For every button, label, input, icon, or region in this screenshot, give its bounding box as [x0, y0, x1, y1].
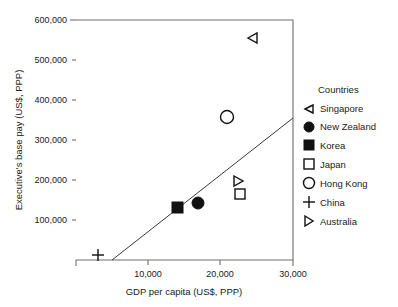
- y-axis-tick-labels: 600,000 500,000 400,000 300,000 200,000 …: [34, 15, 67, 225]
- legend-marker-new-zealand: [304, 122, 314, 132]
- x-tick-label-30000: 30,000: [279, 269, 307, 279]
- y-axis-ticks: [70, 20, 76, 220]
- chart-canvas: 600,000 500,000 400,000 300,000 200,000 …: [0, 0, 398, 307]
- legend-marker-hong-kong: [304, 178, 315, 189]
- data-point-australia: [234, 176, 243, 186]
- data-points: [92, 33, 257, 261]
- legend-marker-china: [303, 196, 315, 208]
- plot-border: [76, 20, 293, 260]
- plot-frame: [76, 20, 293, 260]
- y-tick-label-500000: 500,000: [34, 55, 67, 65]
- legend-label-japan: Japan: [320, 159, 346, 170]
- x-axis-ticks: [76, 260, 293, 266]
- chart-legend: Countries Singapore New Zealand Korea Ja…: [303, 84, 376, 227]
- legend-label-hong-kong: Hong Kong: [320, 178, 368, 189]
- legend-label-australia: Australia: [320, 216, 358, 227]
- y-tick-label-300000: 300,000: [34, 135, 67, 145]
- data-point-hong-kong: [221, 111, 234, 124]
- legend-marker-singapore: [305, 105, 313, 113]
- legend-label-new-zealand: New Zealand: [320, 121, 376, 132]
- y-tick-label-100000: 100,000: [34, 215, 67, 225]
- legend-label-singapore: Singapore: [320, 103, 363, 114]
- x-tick-label-10000: 10,000: [134, 269, 162, 279]
- trend-line: [112, 118, 293, 260]
- y-tick-label-600000: 600,000: [34, 15, 67, 25]
- legend-label-china: China: [320, 197, 346, 208]
- legend-label-korea: Korea: [320, 140, 346, 151]
- y-tick-label-200000: 200,000: [34, 175, 67, 185]
- data-point-korea: [172, 202, 183, 213]
- data-point-new-zealand: [192, 197, 204, 209]
- data-point-china: [92, 249, 104, 261]
- y-axis-title: Executive's base pay (US$, PPP): [13, 70, 24, 211]
- y-tick-label-400000: 400,000: [34, 95, 67, 105]
- legend-title: Countries: [318, 84, 359, 95]
- data-point-singapore: [248, 33, 257, 43]
- x-tick-label-20000: 20,000: [206, 269, 234, 279]
- x-axis-title: GDP per capita (US$, PPP): [126, 286, 243, 297]
- legend-marker-japan: [304, 159, 314, 169]
- legend-marker-australia: [305, 216, 313, 226]
- legend-marker-korea: [304, 140, 314, 150]
- scatter-chart-figure: 600,000 500,000 400,000 300,000 200,000 …: [0, 0, 398, 307]
- data-point-japan: [235, 189, 245, 199]
- x-axis-tick-labels: 10,000 20,000 30,000: [134, 269, 307, 279]
